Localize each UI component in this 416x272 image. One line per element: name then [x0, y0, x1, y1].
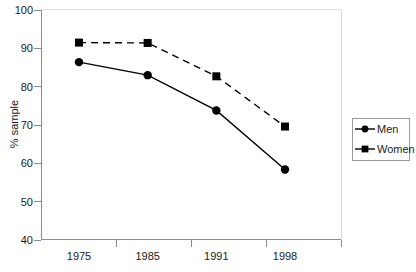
data-point-women-1975: [75, 39, 83, 47]
data-point-men-1998: [281, 165, 289, 173]
data-point-women-1991: [212, 72, 220, 80]
series-line-men: [79, 62, 285, 169]
data-point-men-1991: [212, 106, 220, 114]
series-line-women: [79, 43, 285, 127]
data-point-women-1998: [281, 123, 289, 131]
data-point-women-1985: [144, 39, 152, 47]
legend-label-men: Men: [377, 124, 398, 135]
legend-item-women[interactable]: Women: [353, 139, 409, 159]
data-point-men-1975: [75, 58, 83, 66]
legend-label-women: Women: [377, 144, 415, 155]
legend-item-men[interactable]: Men: [353, 119, 409, 139]
circle-marker-icon: [353, 120, 377, 138]
chart-legend: Men Women: [352, 118, 410, 161]
line-chart-figure: % sample 100908070605040 197519851991199…: [0, 0, 416, 272]
square-marker-icon: [353, 140, 377, 158]
data-point-men-1985: [143, 71, 151, 79]
